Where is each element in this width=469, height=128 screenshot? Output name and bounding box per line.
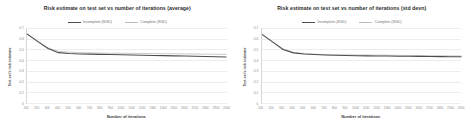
legend-item-complete: Complete (SGD) [359, 20, 401, 24]
legend-label: Incomplete (SGD) [318, 20, 347, 24]
y-axis-title: Test set's risk estimate [6, 26, 14, 108]
y-tick-label: 0.4 [254, 59, 259, 63]
x-tick-label: 800 [332, 106, 337, 110]
y-tick-label: 0.5 [254, 48, 259, 52]
y-tick-label: 0.1 [254, 91, 259, 95]
legend-label: Complete (SGD) [375, 20, 402, 24]
x-tick-label: 1900 [447, 106, 454, 110]
x-tick-label: 900 [108, 106, 113, 110]
y-tick-label: 0.2 [254, 80, 259, 84]
series-line [27, 34, 227, 54]
chart-panel-average: Risk estimate on test set vs number of i… [0, 0, 235, 128]
grid-line [262, 103, 462, 104]
x-tick-label: 1600 [181, 106, 188, 110]
grid-line [27, 103, 227, 104]
x-tick-label: 100 [258, 106, 263, 110]
y-tick-label: 0.3 [254, 69, 259, 73]
x-tick-label: 2000 [223, 106, 230, 110]
legend-line-swatch-icon [125, 22, 138, 23]
chart-legend: Incomplete (SGD) Complete (SGD) [0, 20, 235, 24]
x-tick-label: 1800 [436, 106, 443, 110]
x-tick-label: 1100 [128, 106, 135, 110]
y-tick-label: 0.2 [19, 80, 24, 84]
x-tick-label: 1200 [139, 106, 146, 110]
x-tick-label: 400 [55, 106, 60, 110]
plot-area-wrapper: Test set's risk estimate 0.70.60.50.40.3… [235, 26, 469, 108]
x-tick-label: 200 [34, 106, 39, 110]
x-tick-label: 1300 [149, 106, 156, 110]
x-tick-label: 1300 [384, 106, 391, 110]
y-tick-label: 0.6 [19, 37, 24, 41]
series-layer [262, 28, 462, 103]
y-tick-label: 0.3 [19, 69, 24, 73]
series-layer [27, 28, 227, 103]
plot-area [26, 28, 227, 104]
x-tick-label: 1000 [118, 106, 125, 110]
plot-area [261, 28, 462, 104]
legend-line-swatch-icon [359, 22, 372, 23]
x-tick-label: 700 [87, 106, 92, 110]
x-axis-ticks: 1002003004005006007008009001000110012001… [261, 106, 462, 114]
plot-area-wrapper: Test set's risk estimate 0.70.60.50.40.3… [0, 26, 235, 108]
y-tick-label: 0.7 [19, 26, 24, 30]
y-tick-label: 0.4 [19, 59, 24, 63]
legend-item-incomplete: Incomplete (SGD) [68, 20, 112, 24]
chart-title: Risk estimate on test set vs number of i… [235, 5, 469, 11]
x-tick-label: 1800 [202, 106, 209, 110]
x-tick-label: 1600 [415, 106, 422, 110]
x-axis-title: Number of iterations [26, 114, 227, 119]
x-tick-label: 700 [321, 106, 326, 110]
x-tick-label: 300 [45, 106, 50, 110]
figure-canvas: Risk estimate on test set vs number of i… [0, 0, 469, 128]
legend-line-swatch-icon [302, 22, 315, 23]
x-tick-label: 500 [66, 106, 71, 110]
x-tick-label: 1500 [170, 106, 177, 110]
x-tick-label: 400 [290, 106, 295, 110]
x-tick-label: 1100 [363, 106, 370, 110]
x-tick-label: 500 [300, 106, 305, 110]
chart-title: Risk estimate on test set vs number of i… [0, 5, 235, 11]
x-tick-label: 600 [311, 106, 316, 110]
x-tick-label: 1700 [426, 106, 433, 110]
x-tick-label: 300 [279, 106, 284, 110]
x-axis-title: Number of iterations [261, 114, 462, 119]
x-tick-label: 1700 [191, 106, 198, 110]
x-tick-label: 1400 [160, 106, 167, 110]
x-tick-label: 100 [23, 106, 28, 110]
y-tick-label: 0.1 [19, 91, 24, 95]
legend-label: Complete (SGD) [140, 20, 167, 24]
chart-legend: Incomplete (SGD) Complete (SGD) [235, 20, 469, 24]
series-line [262, 34, 462, 56]
x-tick-label: 1000 [352, 106, 359, 110]
y-axis-title: Test set's risk estimate [241, 26, 249, 108]
y-axis-ticks: 0.70.60.50.40.30.20.10 [14, 26, 24, 108]
x-axis-ticks: 1002003004005006007008009001000110012001… [26, 106, 227, 114]
x-tick-label: 800 [97, 106, 102, 110]
chart-panel-std-devn: Risk estimate on test set vs number of i… [235, 0, 469, 128]
x-tick-label: 1500 [405, 106, 412, 110]
y-tick-label: 0.6 [254, 37, 259, 41]
x-tick-label: 1400 [394, 106, 401, 110]
x-tick-label: 1900 [212, 106, 219, 110]
y-axis-ticks: 0.70.60.50.40.30.20.10 [249, 26, 259, 108]
y-tick-label: 0.7 [254, 26, 259, 30]
x-tick-label: 2000 [458, 106, 465, 110]
x-tick-label: 1200 [373, 106, 380, 110]
legend-line-swatch-icon [68, 22, 81, 23]
x-tick-label: 900 [342, 106, 347, 110]
legend-item-incomplete: Incomplete (SGD) [302, 20, 346, 24]
y-tick-label: 0.5 [19, 48, 24, 52]
x-tick-label: 600 [76, 106, 81, 110]
legend-label: Incomplete (SGD) [83, 20, 112, 24]
x-tick-label: 200 [268, 106, 273, 110]
legend-item-complete: Complete (SGD) [125, 20, 167, 24]
